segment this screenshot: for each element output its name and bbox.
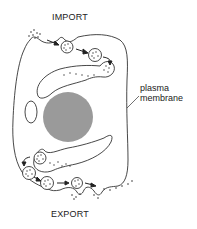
plasma-membrane-label-line2: membrane <box>140 93 183 103</box>
membrane-pointer-line <box>127 96 139 108</box>
export-vesicle-2 <box>41 177 54 190</box>
small-organelle <box>25 101 37 123</box>
export-fusing-vesicle <box>72 178 83 189</box>
import-budding-vesicle <box>61 41 73 53</box>
export-label: EXPORT <box>0 209 140 219</box>
import-arrows <box>47 40 112 65</box>
plasma-membrane-label: plasma membrane <box>140 83 183 103</box>
import-vesicle <box>89 49 102 62</box>
plasma-membrane-label-line1: plasma <box>140 83 183 93</box>
upper-compartment <box>37 62 114 99</box>
cell-diagram <box>0 0 197 229</box>
import-label: IMPORT <box>0 12 140 22</box>
upper-compartment-cargo <box>63 72 94 76</box>
export-budding-vesicle <box>34 152 46 164</box>
export-vesicle-1 <box>23 167 36 180</box>
nucleus <box>43 92 93 142</box>
